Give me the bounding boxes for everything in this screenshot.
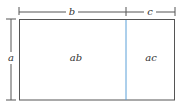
label-c: c — [147, 6, 153, 17]
dimension-a: a — [6, 19, 16, 100]
distributive-area-diagram: b c a ab ac — [0, 0, 180, 112]
dimension-b: b — [19, 6, 126, 17]
region-ac-label: ac — [145, 52, 157, 63]
label-a: a — [8, 52, 14, 63]
dimension-c: c — [126, 6, 175, 17]
region-ab-label: ab — [70, 52, 82, 63]
label-b: b — [69, 6, 75, 17]
